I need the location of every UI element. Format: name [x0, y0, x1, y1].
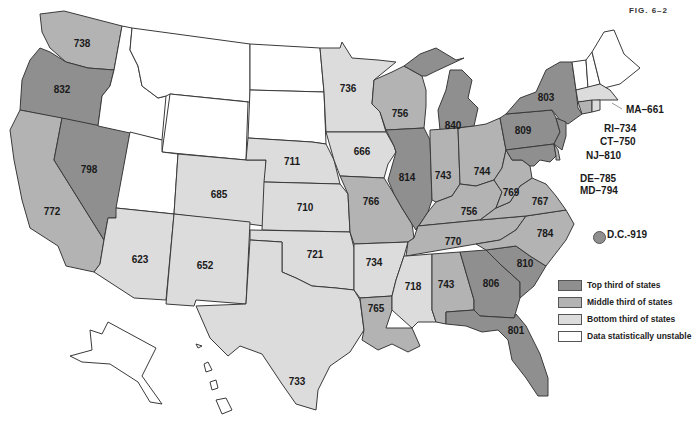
callout-ri: RI–734 — [604, 123, 637, 134]
legend-item-top: Top third of states — [558, 280, 696, 291]
label-wi: 756 — [392, 108, 409, 119]
label-ar: 734 — [366, 257, 383, 268]
callout-nj: NJ–810 — [586, 150, 621, 161]
label-ny: 803 — [538, 92, 555, 103]
label-nc: 784 — [537, 228, 554, 239]
label-in: 743 — [435, 170, 452, 181]
legend-swatch-unstable — [558, 331, 582, 342]
callout-line-ma — [612, 103, 622, 109]
state-wy[interactable] — [162, 94, 248, 160]
label-il: 814 — [399, 172, 416, 183]
label-ne: 711 — [284, 156, 301, 167]
label-ks: 710 — [297, 202, 314, 213]
label-az: 623 — [132, 254, 149, 265]
label-nm: 652 — [197, 260, 214, 271]
dc-marker — [593, 231, 606, 244]
legend-item-middle: Middle third of states — [558, 297, 696, 308]
state-ri[interactable] — [592, 100, 600, 112]
state-sd[interactable] — [248, 90, 326, 144]
label-nv: 798 — [81, 164, 98, 175]
legend-item-unstable: Data statistically unstable — [558, 331, 696, 353]
label-al: 743 — [438, 279, 455, 290]
callout-ma: MA–661 — [626, 104, 664, 115]
label-ky: 756 — [461, 206, 478, 217]
label-fl: 801 — [508, 325, 525, 336]
state-mt[interactable] — [130, 28, 250, 102]
legend-swatch-top — [558, 280, 582, 291]
legend-swatch-bottom — [558, 314, 582, 325]
label-mo: 766 — [363, 196, 380, 207]
legend-item-bottom: Bottom third of states — [558, 314, 696, 325]
label-tx: 733 — [289, 376, 306, 387]
legend-label-top: Top third of states — [587, 280, 696, 290]
label-la: 765 — [368, 303, 385, 314]
callout-ct: CT–750 — [600, 136, 636, 147]
label-ok: 721 — [307, 249, 324, 260]
label-pa: 809 — [515, 125, 532, 136]
label-oh: 744 — [474, 166, 491, 177]
legend-label-unstable: Data statistically unstable — [587, 331, 696, 341]
state-nd[interactable] — [250, 44, 324, 92]
legend-label-middle: Middle third of states — [587, 297, 696, 307]
legend-swatch-middle — [558, 297, 582, 308]
label-tn: 770 — [445, 236, 462, 247]
label-co: 685 — [211, 189, 228, 200]
label-ia: 666 — [354, 146, 371, 157]
callout-de: DE–785 — [580, 173, 617, 184]
state-me[interactable] — [592, 30, 640, 88]
label-mn: 736 — [340, 83, 357, 94]
label-ms: 718 — [405, 281, 422, 292]
label-sc: 810 — [517, 258, 534, 269]
label-va: 767 — [532, 196, 549, 207]
state-fl[interactable] — [446, 310, 548, 396]
legend: Top third of states Middle third of stat… — [558, 280, 696, 359]
label-wa: 738 — [74, 38, 91, 49]
label-or: 832 — [54, 84, 71, 95]
state-ak[interactable] — [70, 322, 162, 404]
label-ca: 772 — [44, 206, 61, 217]
label-wv: 769 — [503, 187, 520, 198]
label-mi: 840 — [445, 120, 462, 131]
legend-label-bottom: Bottom third of states — [587, 314, 696, 324]
label-ga: 806 — [483, 278, 500, 289]
callout-dc: D.C.-919 — [607, 229, 647, 240]
callout-md: MD–794 — [580, 185, 618, 196]
